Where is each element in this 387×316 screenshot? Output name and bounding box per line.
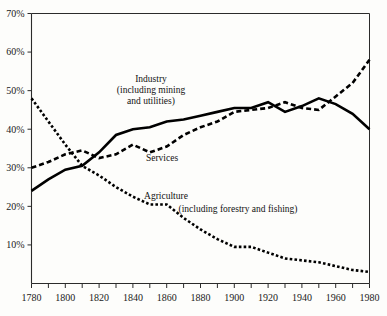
y-axis-ticks [28, 14, 32, 245]
series-group [32, 60, 370, 272]
x-axis-tick-label: 1800 [55, 292, 75, 303]
y-axis-tick-label: 50% [6, 85, 24, 96]
x-axis-ticks [32, 284, 370, 289]
plot-frame [32, 14, 370, 284]
series-line-agriculture [32, 98, 370, 272]
industry-label-line: Industry [135, 74, 167, 84]
x-axis-tick-label: 1820 [89, 292, 109, 303]
agriculture-sublabel: (including forestry and fishing) [179, 204, 298, 215]
x-axis-tick-label: 1920 [258, 292, 278, 303]
y-axis-tick-label: 70% [6, 8, 24, 19]
series-line-services [32, 60, 370, 168]
x-axis-tick-label: 1980 [360, 292, 380, 303]
x-axis-tick-label: 1880 [191, 292, 211, 303]
industry-label-line: (including mining [117, 85, 186, 96]
services-label-line: Services [146, 153, 178, 163]
y-axis-tick-labels: 10%20%30%40%50%60%70% [6, 8, 24, 250]
industry-label: Industry(including miningand utilities) [117, 74, 186, 107]
y-axis-tick-label: 20% [6, 201, 24, 212]
line-chart: 10%20%30%40%50%60%70% 178018001820184018… [0, 0, 387, 316]
x-axis-tick-label: 1780 [22, 292, 42, 303]
x-axis: 1780180018201840186018801900192019401960… [22, 284, 380, 303]
x-axis-tick-label: 1940 [292, 292, 312, 303]
services-label: Services [146, 153, 178, 163]
agriculture-label-line: Agriculture [144, 191, 188, 201]
x-axis-tick-label: 1860 [157, 292, 177, 303]
chart-container: 10%20%30%40%50%60%70% 178018001820184018… [0, 0, 387, 316]
x-axis-tick-label: 1960 [326, 292, 346, 303]
industry-label-line: and utilities) [127, 96, 175, 107]
x-axis-tick-labels: 1780180018201840186018801900192019401960… [22, 292, 380, 303]
agriculture-sublabel-line: (including forestry and fishing) [179, 204, 298, 215]
y-axis: 10%20%30%40%50%60%70% [6, 8, 31, 284]
x-axis-tick-label: 1840 [123, 292, 143, 303]
y-axis-tick-label: 30% [6, 162, 24, 173]
series-line-industry [32, 98, 370, 191]
series-annotations: Industry(including miningand utilities)S… [117, 74, 298, 215]
y-axis-tick-label: 10% [6, 239, 24, 250]
x-axis-tick-label: 1900 [224, 292, 244, 303]
agriculture-label: Agriculture [144, 191, 188, 201]
y-axis-tick-label: 40% [6, 124, 24, 135]
y-axis-tick-label: 60% [6, 46, 24, 57]
